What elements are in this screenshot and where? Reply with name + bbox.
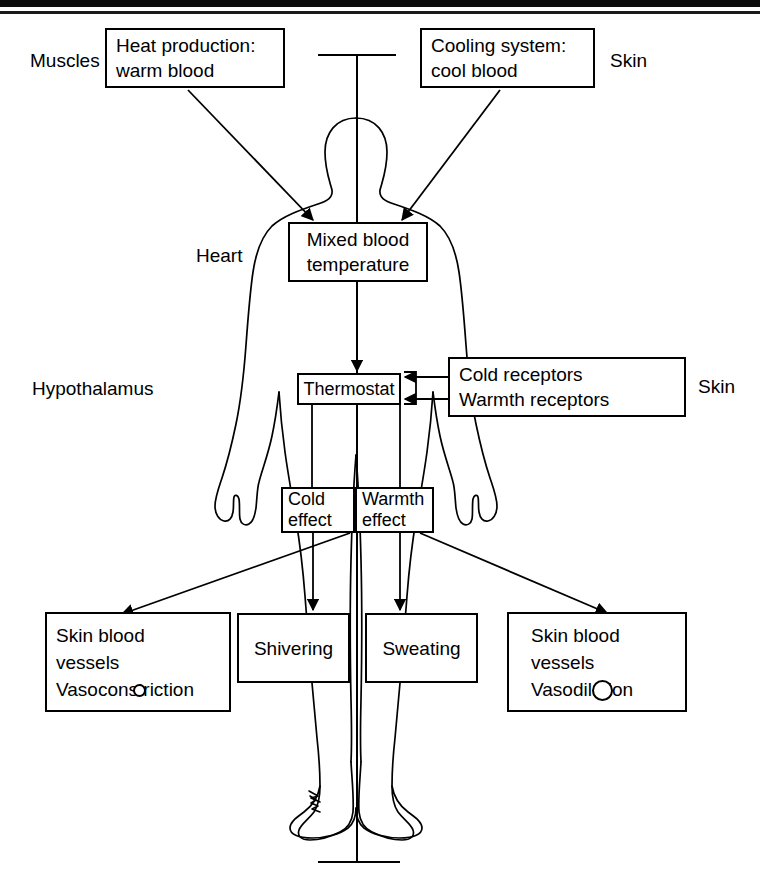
box-shivering[interactable]: Shivering <box>237 613 350 683</box>
label-hypothalamus: Hypothalamus <box>32 378 153 400</box>
box-heat-production[interactable]: Heat production: warm blood <box>105 28 285 88</box>
box-thermostat[interactable]: Thermostat <box>297 373 401 405</box>
box-cooling-system[interactable]: Cooling system: cool blood <box>420 28 595 88</box>
diagram-page: Heat production: warm blood Cooling syst… <box>0 0 760 889</box>
box-cold-effect[interactable]: Cold effect <box>281 487 355 533</box>
box-sweating[interactable]: Sweating <box>365 613 478 683</box>
label-heart: Heart <box>196 245 242 267</box>
arrow-heat-production-to-mixed-blood <box>188 90 313 220</box>
box-receptors[interactable]: Cold receptors Warmth receptors <box>448 357 686 417</box>
vasoconstriction-vessel-icon <box>133 684 146 697</box>
box-mixed-blood-temperature[interactable]: Mixed blood temperature <box>288 222 428 282</box>
diagram-line-art <box>0 0 760 889</box>
label-skin-right: Skin <box>698 376 735 398</box>
central-axis <box>318 55 400 862</box>
arrow-cold-effect-to-vasoconstriction <box>122 533 350 614</box>
label-muscles: Muscles <box>30 50 100 72</box>
arrow-cooling-system-to-mixed-blood <box>402 90 500 220</box>
box-warmth-effect[interactable]: Warmth effect <box>355 487 434 533</box>
arrow-warmth-effect-to-vasodilation <box>420 533 607 613</box>
box-vasoconstriction[interactable]: Skin blood vessels Vasoconstriction <box>45 612 231 712</box>
label-skin-top: Skin <box>610 50 647 72</box>
vasodilation-vessel-icon <box>592 680 613 701</box>
